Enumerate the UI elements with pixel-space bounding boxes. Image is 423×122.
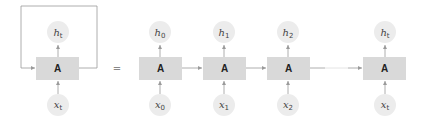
cell-label: A — [54, 63, 61, 74]
cell-label: A — [221, 63, 228, 74]
rnn-diagram: A ht xt = A h0 x0 A h1 x1 A — [0, 0, 423, 122]
unrolled-cell-1: A h1 x1 — [203, 21, 246, 116]
equals-sign: = — [113, 63, 121, 74]
unrolled-cell-0: A h0 x0 — [139, 21, 182, 116]
cell-label: A — [381, 63, 388, 74]
unrolled-cell-2: A h2 x2 — [267, 21, 310, 116]
folded-rnn: A ht xt — [21, 6, 97, 116]
cell-label: A — [285, 63, 292, 74]
unrolled-cell-t: A ht xt — [363, 21, 406, 116]
cell-label: A — [157, 63, 164, 74]
